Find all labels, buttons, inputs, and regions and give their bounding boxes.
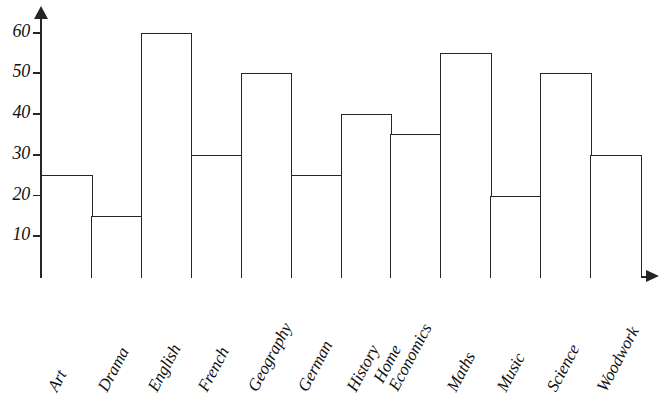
bar [390,134,442,278]
bar [291,175,343,278]
bar-chart-figure: 102030405060 ArtDramaEnglishFrenchGeogra… [0,0,666,396]
bar [91,216,143,278]
bar [490,196,542,278]
bar [590,155,642,278]
y-axis-tick-label: 50 [0,62,30,80]
y-axis-tick-label: 10 [0,225,30,243]
y-axis-tick-label: 30 [0,144,30,162]
bar [341,114,393,278]
x-axis-category-label: HomeEconomics [371,313,436,394]
x-axis-category-label: Science [544,341,583,394]
y-axis-tick-label-text: 10 [0,225,30,243]
y-axis-tick [33,32,42,34]
bar [41,175,93,278]
x-axis-category-label: English [144,341,183,394]
x-axis-category-label: Music [494,350,528,394]
x-axis-category-label: French [194,344,231,394]
x-axis-category-label: Art [45,367,70,394]
y-axis-tick-label-text: 30 [0,144,30,162]
x-axis-arrowhead-icon [646,270,659,282]
y-axis-tick-label-text: 20 [0,185,30,203]
bar [191,155,243,278]
bar [540,73,592,278]
x-axis-category-label: Geography [244,320,294,394]
y-axis-tick [33,113,42,115]
y-axis-tick-label-text: 40 [0,103,30,121]
y-axis-arrowhead-icon [34,6,48,19]
bar [241,73,293,278]
bar [141,33,193,278]
y-axis-tick [33,72,42,74]
y-axis-tick-label: 60 [0,22,30,40]
x-axis-category-label: Maths [444,349,479,394]
x-axis-category-label: German [294,338,335,394]
y-axis-tick-label: 20 [0,185,30,203]
bar [440,53,492,278]
x-axis-category-labels: ArtDramaEnglishFrenchGeographyGermanHist… [0,282,666,396]
y-axis-tick-label-text: 60 [0,22,30,40]
x-axis-category-label: Drama [95,344,132,394]
plot-area: 102030405060 [0,0,666,290]
x-axis-category-label: Woodwork [594,324,642,394]
y-axis-tick-label-text: 50 [0,62,30,80]
y-axis-tick-label: 40 [0,103,30,121]
y-axis-tick [33,154,42,156]
